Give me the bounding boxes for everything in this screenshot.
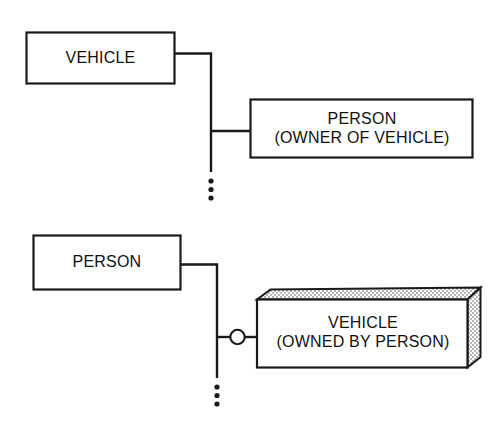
connector-person-to-vehicle: [181, 265, 218, 379]
connector-vehicle-to-person: [175, 54, 212, 173]
entity-3d-top-face: [257, 288, 481, 300]
optional-circle-junction[interactable]: [230, 330, 244, 344]
ellipsis-dots-panel-1: [208, 178, 213, 200]
entity-label-vehicle-owned: VEHICLE (OWNED BY PERSON): [258, 314, 468, 352]
entity-label-person-source: PERSON: [33, 253, 181, 272]
entity-3d-side-face: [468, 288, 481, 368]
entity-label-vehicle-owned-line1: VEHICLE: [328, 314, 398, 331]
entity-label-person-owner-line2: (OWNER OF VEHICLE): [251, 129, 473, 148]
entity-label-person-owner: PERSON (OWNER OF VEHICLE): [251, 110, 473, 148]
diagram-canvas: VEHICLE PERSON (OWNER OF VEHICLE) PERSON…: [0, 0, 503, 424]
entity-label-vehicle-source: VEHICLE: [26, 49, 175, 68]
entity-label-vehicle-owned-line2: (OWNED BY PERSON): [258, 333, 468, 352]
entity-label-person-owner-line1: PERSON: [328, 110, 397, 127]
ellipsis-dots-panel-2: [214, 384, 219, 406]
